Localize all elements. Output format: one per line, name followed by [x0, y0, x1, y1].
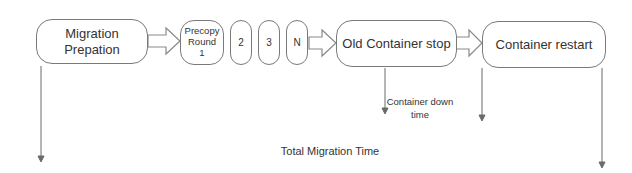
- step-precopy-round-2: 2: [230, 20, 252, 65]
- step-label: Migration Prepation: [64, 26, 120, 57]
- flow-arrow-icon: [148, 28, 180, 54]
- step-label: 2: [238, 37, 244, 49]
- step-label: Old Container stop: [342, 36, 450, 52]
- step-precopy-round-n: N: [286, 20, 308, 65]
- step-label: Precopy Round 1: [185, 26, 220, 59]
- step-old-container-stop: Old Container stop: [336, 20, 457, 67]
- downtime-label: Container down time: [378, 95, 462, 121]
- down-arrow-icon: [479, 115, 485, 121]
- step-label: N: [293, 37, 300, 49]
- flow-arrow-icon: [309, 30, 336, 56]
- down-arrow-icon: [599, 162, 605, 168]
- step-migration-preparation: Migration Prepation: [36, 19, 148, 64]
- total-migration-time-label: Total Migration Time: [260, 145, 400, 157]
- step-label: Container restart: [496, 37, 593, 53]
- step-precopy-round-1: Precopy Round 1: [180, 20, 224, 65]
- step-label: 3: [266, 37, 272, 49]
- down-arrow-icon: [38, 156, 44, 162]
- step-precopy-round-3: 3: [258, 20, 280, 65]
- step-container-restart: Container restart: [482, 21, 606, 68]
- flow-arrow-icon: [456, 30, 482, 56]
